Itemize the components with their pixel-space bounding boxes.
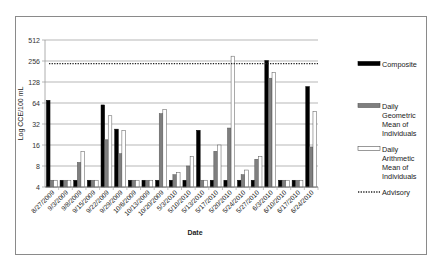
bar-daily-geometric-mean-of-individuals	[132, 180, 136, 187]
legend-label: Composite	[382, 60, 417, 69]
y-tick-label: 256	[28, 58, 40, 65]
bar-composite	[115, 129, 119, 187]
bar-composite	[142, 180, 146, 187]
bar-daily-arithmetic-mean-of-individuals	[258, 156, 262, 187]
bar-daily-geometric-mean-of-individuals	[187, 166, 191, 187]
bar-daily-geometric-mean-of-individuals	[50, 180, 54, 187]
legend-swatch	[358, 104, 380, 108]
legend-label: Individuals	[382, 172, 417, 181]
bar-composite	[87, 180, 91, 187]
legend-label: Mean of	[382, 120, 409, 129]
bar-daily-arithmetic-mean-of-individuals	[299, 180, 303, 187]
bar-composite	[238, 180, 242, 187]
bar-daily-geometric-mean-of-individuals	[64, 180, 68, 187]
bar-composite	[251, 180, 255, 187]
legend-label: Mean of	[382, 163, 409, 172]
bar-composite	[292, 180, 296, 187]
bar-daily-geometric-mean-of-individuals	[268, 78, 272, 187]
bar-daily-arithmetic-mean-of-individuals	[122, 130, 126, 187]
y-axis-title: Log CCE/100 mL	[17, 87, 25, 141]
y-tick-label: 16	[32, 142, 40, 149]
legend-label: Arithmetic	[382, 154, 415, 163]
bar-daily-arithmetic-mean-of-individuals	[245, 170, 249, 187]
bar-composite	[46, 100, 50, 187]
y-tick-label: 64	[32, 100, 40, 107]
y-tick-label: 4	[36, 184, 40, 191]
legend-label: Individuals	[382, 129, 417, 138]
bar-daily-geometric-mean-of-individuals	[200, 180, 204, 187]
x-axis-title: Date	[187, 229, 202, 236]
bar-daily-geometric-mean-of-individuals	[159, 114, 163, 187]
bar-composite	[128, 180, 132, 187]
bar-daily-arithmetic-mean-of-individuals	[95, 180, 99, 187]
bar-daily-arithmetic-mean-of-individuals	[190, 156, 194, 187]
bar-composite	[278, 180, 282, 187]
bar-daily-arithmetic-mean-of-individuals	[286, 180, 290, 187]
legend-label: Daily	[382, 145, 399, 154]
bar-daily-arithmetic-mean-of-individuals	[272, 73, 276, 187]
bar-daily-arithmetic-mean-of-individuals	[163, 109, 167, 187]
y-tick-label: 8	[36, 163, 40, 170]
y-tick-label: 32	[32, 121, 40, 128]
bar-daily-geometric-mean-of-individuals	[214, 151, 218, 187]
bar-daily-arithmetic-mean-of-individuals	[67, 180, 71, 187]
y-tick-label: 128	[28, 79, 40, 86]
bar-daily-arithmetic-mean-of-individuals	[136, 180, 140, 187]
bar-daily-arithmetic-mean-of-individuals	[204, 180, 208, 187]
bar-daily-geometric-mean-of-individuals	[241, 175, 245, 187]
bar-daily-geometric-mean-of-individuals	[118, 154, 122, 187]
y-tick-label: 512	[28, 37, 40, 44]
bar-daily-geometric-mean-of-individuals	[255, 159, 259, 187]
bar-composite	[101, 105, 105, 187]
bar-composite	[306, 87, 310, 187]
bar-daily-arithmetic-mean-of-individuals	[108, 116, 112, 187]
bar-daily-arithmetic-mean-of-individuals	[149, 180, 153, 187]
bar-daily-geometric-mean-of-individuals	[296, 180, 300, 187]
legend-swatch	[358, 147, 380, 151]
bar-composite	[265, 61, 269, 187]
bar-composite	[183, 180, 187, 187]
bar-composite	[169, 180, 173, 187]
bar-daily-arithmetic-mean-of-individuals	[313, 112, 317, 187]
bar-daily-geometric-mean-of-individuals	[309, 147, 313, 187]
bar-composite	[60, 180, 64, 187]
legend-label: Geometric	[382, 111, 416, 120]
bar-daily-arithmetic-mean-of-individuals	[231, 56, 235, 187]
legend-label: Advisory	[382, 188, 410, 197]
bar-daily-geometric-mean-of-individuals	[146, 180, 150, 187]
bar-composite	[74, 180, 78, 187]
bar-daily-geometric-mean-of-individuals	[173, 175, 177, 187]
bar-daily-geometric-mean-of-individuals	[77, 162, 81, 187]
bar-daily-geometric-mean-of-individuals	[282, 180, 286, 187]
bar-daily-arithmetic-mean-of-individuals	[176, 172, 180, 187]
bar-daily-arithmetic-mean-of-individuals	[54, 180, 58, 187]
bar-daily-geometric-mean-of-individuals	[91, 180, 95, 187]
bar-daily-arithmetic-mean-of-individuals	[81, 151, 85, 187]
bar-composite	[156, 180, 160, 187]
bar-composite	[224, 180, 228, 187]
legend-label: Daily	[382, 102, 399, 111]
bar-daily-arithmetic-mean-of-individuals	[217, 145, 221, 187]
bar-daily-geometric-mean-of-individuals	[105, 140, 109, 187]
bar-composite	[210, 180, 214, 187]
legend-swatch	[358, 62, 380, 66]
bar-composite	[197, 130, 201, 187]
bar-daily-geometric-mean-of-individuals	[227, 128, 231, 187]
bar-chart: 48163264128256512Log CCE/100 mL8/27/2009…	[0, 0, 440, 269]
